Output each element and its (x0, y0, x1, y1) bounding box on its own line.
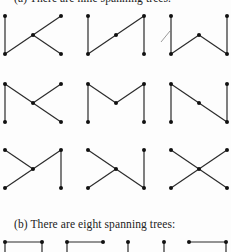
tree-vertex (169, 52, 173, 56)
tree-edge (5, 35, 33, 54)
tree-vertex (169, 186, 173, 190)
tree-vertex (3, 148, 7, 152)
tree-vertex (3, 240, 7, 244)
tree-edge (5, 169, 33, 188)
tree-vertex (65, 240, 69, 244)
tree-vertex (59, 186, 63, 190)
tree-vertex (224, 240, 228, 244)
scan-artifact (161, 31, 170, 42)
tree-edge (199, 103, 227, 122)
tree-edge (33, 103, 61, 122)
tree-vertex (3, 186, 7, 190)
tree-vertex (86, 82, 90, 86)
tree-vertex (101, 240, 105, 244)
tree-edge (88, 150, 116, 169)
tree-vertex (114, 167, 118, 171)
tree-edge (88, 84, 116, 103)
tree-vertex (3, 52, 7, 56)
tree-vertex (142, 52, 146, 56)
tree-vertex (86, 148, 90, 152)
tree-edge (5, 150, 33, 169)
spanning-tree-9 (169, 148, 229, 190)
tree-edge (88, 169, 116, 188)
tree-vertex (225, 52, 229, 56)
tree-vertex (31, 101, 35, 105)
tree-vertex (169, 148, 173, 152)
tree-edge (33, 16, 61, 35)
tree-vertex (169, 14, 173, 18)
tree-vertex (3, 82, 7, 86)
tree-edge (33, 35, 61, 54)
tree-vertex (59, 120, 63, 124)
tree-vertex (59, 82, 63, 86)
tree-edge (199, 35, 227, 54)
tree-vertex (162, 240, 166, 244)
tree-edge (33, 84, 61, 103)
spanning-tree-3 (169, 14, 229, 56)
tree-vertex (142, 186, 146, 190)
partial-tree-3 (126, 240, 130, 252)
spanning-tree-2 (86, 14, 146, 56)
tree-vertex (86, 14, 90, 18)
tree-vertex (126, 240, 130, 244)
tree-vertex (40, 240, 44, 244)
tree-vertex (86, 186, 90, 190)
tree-vertex (86, 52, 90, 56)
tree-vertex (142, 148, 146, 152)
part-a-trees (3, 14, 229, 190)
tree-edge (116, 169, 144, 188)
tree-edge (171, 84, 199, 103)
tree-edge (88, 35, 116, 54)
tree-vertex (3, 120, 7, 124)
tree-edge (199, 169, 227, 188)
tree-edge (171, 35, 199, 54)
tree-vertex (225, 82, 229, 86)
spanning-tree-5 (86, 82, 146, 124)
tree-vertex (142, 14, 146, 18)
tree-vertex (31, 167, 35, 171)
partial-tree-4 (162, 240, 166, 252)
partial-tree-5 (187, 240, 228, 252)
spanning-tree-6 (169, 82, 229, 124)
spanning-tree-8 (86, 148, 146, 190)
tree-edge (199, 150, 227, 169)
spanning-tree-1 (3, 14, 63, 56)
tree-vertex (225, 14, 229, 18)
tree-edge (116, 16, 144, 35)
tree-vertex (169, 120, 173, 124)
spanning-tree-4 (3, 82, 63, 124)
tree-vertex (3, 14, 7, 18)
tree-vertex (114, 101, 118, 105)
tree-edge (171, 150, 199, 169)
tree-vertex (197, 167, 201, 171)
spanning-tree-7 (3, 148, 63, 190)
tree-vertex (225, 120, 229, 124)
tree-vertex (169, 82, 173, 86)
tree-vertex (59, 14, 63, 18)
tree-vertex (187, 240, 191, 244)
tree-vertex (142, 82, 146, 86)
spanning-trees-figure (0, 0, 231, 252)
partial-tree-2 (65, 240, 105, 252)
tree-vertex (114, 33, 118, 37)
tree-edge (33, 150, 61, 169)
tree-vertex (142, 120, 146, 124)
tree-vertex (225, 186, 229, 190)
tree-vertex (59, 52, 63, 56)
tree-vertex (31, 33, 35, 37)
tree-vertex (225, 148, 229, 152)
tree-edge (5, 84, 33, 103)
part-b-partial-trees (3, 240, 228, 252)
partial-tree-1 (3, 240, 44, 252)
tree-vertex (59, 148, 63, 152)
tree-vertex (86, 120, 90, 124)
tree-edge (171, 169, 199, 188)
tree-vertex (197, 33, 201, 37)
tree-edge (116, 84, 144, 103)
tree-vertex (197, 101, 201, 105)
